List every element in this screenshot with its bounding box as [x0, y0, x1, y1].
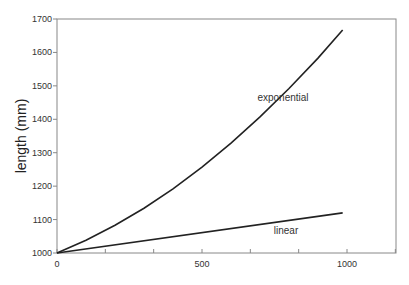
x-tick-label: 0	[54, 259, 59, 269]
x-tick-label: 500	[194, 259, 209, 269]
y-tick-label: 1200	[32, 181, 52, 191]
y-tick-label: 1300	[32, 148, 52, 158]
y-tick-label: 1700	[32, 14, 52, 24]
y-tick-label: 1000	[32, 248, 52, 258]
y-tick-label: 1400	[32, 114, 52, 124]
y-axis-title: length (mm)	[13, 99, 29, 174]
y-tick-label: 1100	[33, 215, 52, 225]
x-tick-label: 1000	[337, 259, 357, 269]
chart: 10001100120013001400150016001700 0500100…	[0, 0, 409, 285]
y-tick-label: 1500	[32, 81, 52, 91]
series-label-exponential: exponential	[257, 92, 308, 103]
plot-frame	[57, 19, 396, 253]
series-label-linear: linear	[274, 225, 299, 236]
y-tick-label: 1600	[32, 47, 52, 57]
